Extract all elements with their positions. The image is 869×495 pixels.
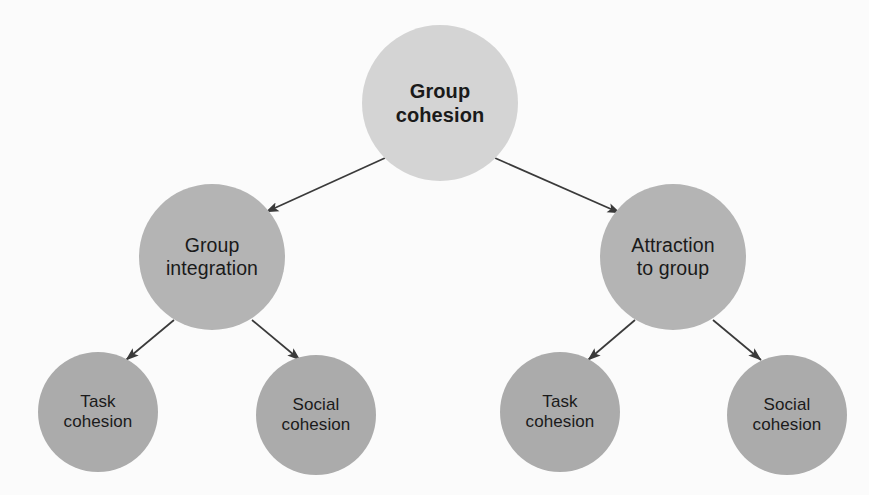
edge-attraction-task [588, 320, 635, 360]
edge-cohesion-attraction [495, 158, 620, 213]
node-attraction-social-cohesion: Social cohesion [727, 355, 847, 475]
node-attraction-task-cohesion: Task cohesion [500, 352, 620, 472]
edge-cohesion-integration [266, 158, 385, 212]
edge-integration-social [252, 320, 300, 360]
node-label-integration-task-cohesion: Task cohesion [64, 392, 133, 433]
node-label-attraction-to-group: Attraction to group [631, 234, 714, 281]
node-integration-social-cohesion: Social cohesion [256, 355, 376, 475]
node-label-group-cohesion: Group cohesion [396, 79, 485, 127]
node-label-integration-social-cohesion: Social cohesion [282, 395, 351, 436]
node-group-cohesion: Group cohesion [362, 25, 518, 181]
node-integration-task-cohesion: Task cohesion [38, 352, 158, 472]
node-label-attraction-task-cohesion: Task cohesion [526, 392, 595, 433]
node-group-integration: Group integration [139, 184, 285, 330]
edge-integration-task [126, 320, 174, 360]
node-label-group-integration: Group integration [166, 234, 258, 281]
cohesion-diagram: Group cohesion Group integration Attract… [0, 0, 869, 495]
node-label-attraction-social-cohesion: Social cohesion [753, 395, 822, 436]
edge-attraction-social [713, 320, 761, 360]
node-attraction-to-group: Attraction to group [600, 184, 746, 330]
